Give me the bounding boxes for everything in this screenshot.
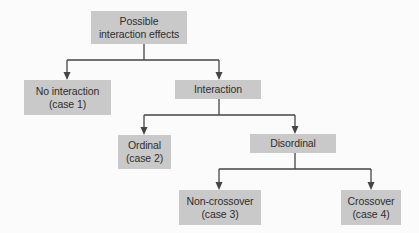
node-label: No interaction [36, 85, 99, 98]
node-label: Crossover [348, 195, 395, 208]
node-crossover: Crossover (case 4) [341, 190, 401, 225]
node-label: Possible [120, 15, 159, 28]
node-label: Interaction [194, 83, 242, 96]
arrowhead-icon [64, 72, 71, 80]
node-no-interaction: No interaction (case 1) [24, 80, 111, 115]
edge-interaction-branch [144, 99, 295, 115]
node-possible-interaction-effects: Possible interaction effects [91, 11, 187, 44]
node-label: (case 3) [201, 208, 238, 221]
edge-root-branch [67, 44, 219, 60]
node-interaction: Interaction [175, 80, 261, 99]
arrowhead-icon [292, 126, 299, 134]
node-label: (case 2) [126, 152, 163, 165]
node-label: Disordinal [270, 137, 316, 150]
node-ordinal: Ordinal (case 2) [118, 135, 171, 169]
node-disordinal: Disordinal [250, 134, 336, 153]
arrowhead-icon [368, 182, 375, 190]
node-label: Ordinal [128, 139, 161, 152]
node-non-crossover: Non-crossover (case 3) [179, 190, 261, 225]
node-label: interaction effects [99, 28, 179, 41]
node-label: (case 1) [49, 98, 86, 111]
node-label: (case 4) [352, 208, 389, 221]
node-label: Non-crossover [187, 195, 254, 208]
interaction-effects-tree: Possible interaction effects No interact… [0, 0, 419, 233]
edge-disordinal-branch [219, 153, 371, 169]
arrowhead-icon [141, 127, 148, 135]
arrowhead-icon [216, 182, 223, 190]
arrowhead-icon [216, 72, 223, 80]
